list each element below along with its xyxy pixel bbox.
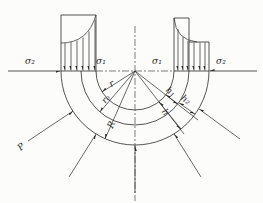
- sigma2-left-label: σ₂: [25, 56, 35, 66]
- curved-bar-diagram: σ₂ σ₁ σ₁ σ₂ r r₀ R h₁ h₂ h P: [0, 0, 263, 203]
- right-arm-inner-layer-outline: [174, 18, 189, 71]
- load-p-label: P: [15, 140, 28, 153]
- left-arm-stress-envelope: [61, 15, 96, 43]
- radius-r0-label: r₀: [99, 93, 112, 106]
- right-arm-outer-layer-outline: [189, 42, 209, 71]
- dim-h1-label: h₁: [164, 85, 178, 99]
- sigma1-right-label: σ₁: [152, 56, 162, 66]
- sigma1-left-label: σ₁: [96, 56, 106, 66]
- curved-bar-figure: σ₂ σ₁ σ₁ σ₂ r r₀ R h₁ h₂ h P: [0, 0, 263, 203]
- right-arm-stress-envelope: [174, 18, 197, 42]
- right-arm-stress-arrows: [178, 29, 205, 71]
- load-p-arrow: [28, 111, 73, 141]
- sigma2-right-label: σ₂: [216, 56, 226, 66]
